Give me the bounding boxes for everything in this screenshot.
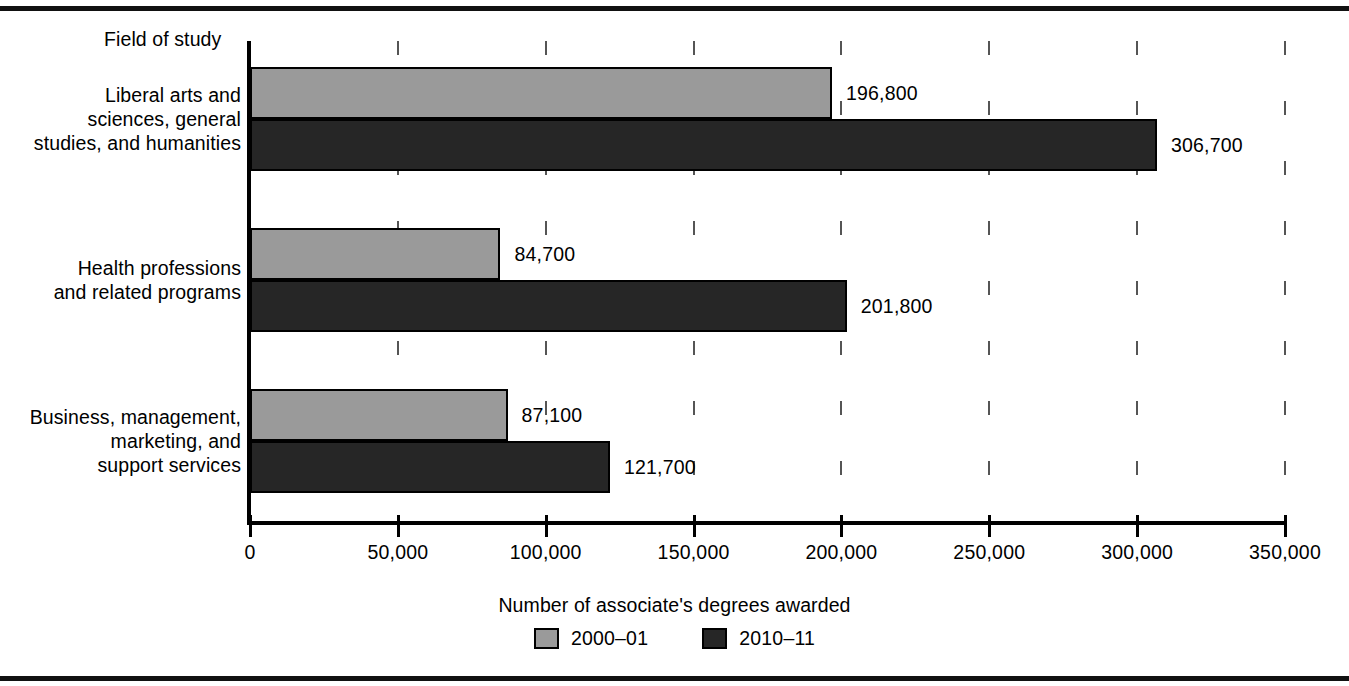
legend-swatch xyxy=(702,628,727,649)
gridline xyxy=(1136,41,1138,521)
category-label: Health professions and related programs xyxy=(54,256,241,304)
x-tick-mark xyxy=(545,515,548,537)
legend-swatch xyxy=(534,628,559,649)
plot-area: 050,000100,000150,000200,000250,000300,0… xyxy=(0,0,1349,686)
bar-value-label: 201,800 xyxy=(861,295,933,318)
bar-value-label: 121,700 xyxy=(624,456,696,479)
x-tick-mark xyxy=(1284,515,1287,537)
bar-value-label: 87,100 xyxy=(522,404,583,427)
bar xyxy=(250,389,508,441)
x-tick-mark xyxy=(988,515,991,537)
bar xyxy=(250,441,610,493)
bar-value-label: 306,700 xyxy=(1171,134,1243,157)
category-label: Business, management, marketing, and sup… xyxy=(30,405,241,477)
x-tick-label: 0 xyxy=(244,541,255,564)
legend-item[interactable]: 2010–11 xyxy=(702,627,815,650)
bar xyxy=(250,119,1157,171)
chart-page: Field of study 050,000100,000150,000200,… xyxy=(0,0,1349,686)
x-tick-label: 200,000 xyxy=(805,541,877,564)
bar xyxy=(250,67,832,119)
legend-label: 2000–01 xyxy=(571,627,648,650)
x-tick-label: 150,000 xyxy=(658,541,730,564)
x-axis-line xyxy=(247,521,1287,525)
bar xyxy=(250,280,847,332)
x-tick-mark xyxy=(693,515,696,537)
x-tick-mark xyxy=(840,515,843,537)
x-axis-title: Number of associate's degrees awarded xyxy=(0,594,1349,617)
legend-label: 2010–11 xyxy=(739,627,815,650)
x-tick-mark xyxy=(397,515,400,537)
legend-item[interactable]: 2000–01 xyxy=(534,627,648,650)
bar xyxy=(250,228,500,280)
bar-value-label: 196,800 xyxy=(846,82,918,105)
x-tick-label: 100,000 xyxy=(510,541,582,564)
x-tick-label: 50,000 xyxy=(367,541,428,564)
x-tick-mark xyxy=(249,515,252,537)
x-tick-label: 300,000 xyxy=(1101,541,1173,564)
bar-value-label: 84,700 xyxy=(514,243,575,266)
x-tick-label: 350,000 xyxy=(1249,541,1321,564)
gridline xyxy=(1284,41,1286,521)
gridline xyxy=(988,41,990,521)
category-label: Liberal arts and sciences, general studi… xyxy=(34,83,241,155)
x-tick-mark xyxy=(1136,515,1139,537)
chart-legend: 2000–012010–11 xyxy=(0,627,1349,650)
x-tick-label: 250,000 xyxy=(953,541,1025,564)
